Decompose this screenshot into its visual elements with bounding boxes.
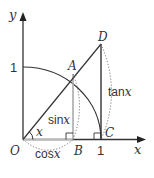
sin-label: sinx bbox=[48, 113, 70, 127]
sin-func: sin bbox=[48, 113, 63, 127]
label-A: A bbox=[67, 59, 77, 73]
unit-circle-diagram: y x 1 1 O A B C D x sinx cosx tanx bbox=[0, 0, 154, 178]
svg-text:sinx: sinx bbox=[48, 113, 70, 127]
y-tick-one: 1 bbox=[10, 60, 17, 75]
cos-func: cos bbox=[35, 147, 54, 161]
cos-var: x bbox=[54, 147, 61, 161]
x-axis-label: x bbox=[134, 142, 142, 157]
right-angle-B-icon bbox=[66, 133, 73, 140]
label-C: C bbox=[105, 126, 114, 140]
angle-label: x bbox=[36, 125, 43, 139]
tan-func: tan bbox=[108, 85, 125, 99]
x-tick-one: 1 bbox=[97, 143, 104, 158]
angle-arc-icon bbox=[29, 132, 33, 140]
svg-text:cosx: cosx bbox=[35, 147, 61, 161]
right-angle-C-icon bbox=[94, 133, 101, 140]
sin-var: x bbox=[63, 113, 70, 127]
cos-label: cosx bbox=[35, 147, 61, 161]
unit-circle-arc bbox=[23, 67, 101, 140]
label-O: O bbox=[10, 144, 20, 158]
svg-text:tanx: tanx bbox=[108, 85, 132, 99]
y-axis-arrow-icon bbox=[20, 12, 27, 21]
axes bbox=[20, 12, 147, 143]
label-B: B bbox=[73, 144, 83, 158]
tan-var: x bbox=[125, 85, 132, 99]
y-axis-label: y bbox=[8, 7, 17, 22]
tan-label: tanx bbox=[108, 85, 132, 99]
label-D: D bbox=[97, 30, 108, 44]
